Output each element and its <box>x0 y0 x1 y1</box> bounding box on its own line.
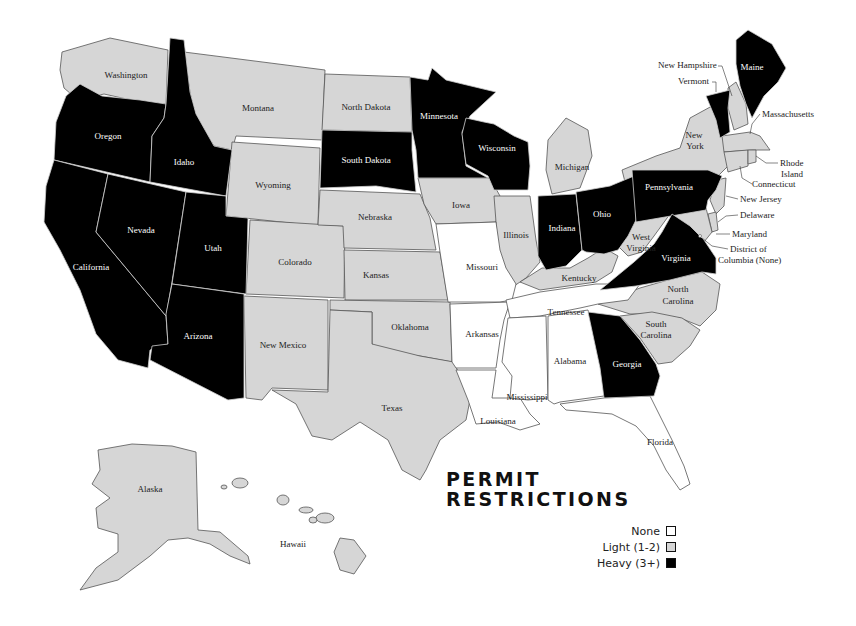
label-iowa: Iowa <box>452 200 470 210</box>
state-mississippi[interactable] <box>502 316 548 400</box>
callout-dc-1: District of <box>730 244 767 254</box>
label-maine: Maine <box>741 62 764 72</box>
legend-item-none: None <box>526 523 676 539</box>
label-north-carolina-1: North <box>668 284 689 294</box>
label-illinois: Illinois <box>503 230 529 240</box>
callout-maryland: Maryland <box>732 229 767 239</box>
label-west-virginia-2: Virginia <box>626 243 655 253</box>
legend-label-none: None <box>631 525 660 538</box>
legend-item-light: Light (1-2) <box>526 539 676 555</box>
label-oregon: Oregon <box>95 131 122 141</box>
label-ohio: Ohio <box>593 209 612 219</box>
callout-connecticut: Connecticut <box>752 179 796 189</box>
label-north-carolina-2: Carolina <box>663 296 694 306</box>
label-arkansas: Arkansas <box>465 329 499 339</box>
callout-rhode-island-1: Rhode <box>780 158 804 168</box>
leader-line <box>740 166 752 184</box>
label-utah: Utah <box>204 243 222 253</box>
swatch-heavy-icon <box>666 558 676 568</box>
label-montana: Montana <box>242 103 274 113</box>
callout-new-jersey: New Jersey <box>740 194 782 204</box>
label-idaho: Idaho <box>174 157 195 167</box>
swatch-light-icon <box>666 542 676 552</box>
label-indiana: Indiana <box>549 223 576 233</box>
label-nevada: Nevada <box>127 225 154 235</box>
label-kentucky: Kentucky <box>562 273 597 283</box>
state-kansas[interactable] <box>344 250 448 300</box>
label-kansas: Kansas <box>363 270 389 280</box>
label-mississippi: Mississippi <box>506 392 548 402</box>
label-michigan: Michigan <box>555 162 590 172</box>
callout-rhode-island-2: Island <box>781 169 803 179</box>
label-wisconsin: Wisconsin <box>478 143 516 153</box>
label-new-mexico: New Mexico <box>260 340 307 350</box>
label-arizona: Arizona <box>184 331 213 341</box>
leader-line <box>718 215 738 222</box>
label-wyoming: Wyoming <box>255 180 291 190</box>
label-missouri: Missouri <box>466 262 499 272</box>
callout-dc-2: Columbia (None) <box>718 255 781 265</box>
label-south-carolina-2: Carolina <box>641 330 672 340</box>
legend-item-heavy: Heavy (3+) <box>526 555 676 571</box>
state-alaska[interactable] <box>80 444 250 590</box>
label-tennessee: Tennessee <box>548 307 585 317</box>
label-washington: Washington <box>105 70 148 80</box>
leader-line <box>756 156 778 163</box>
callout-delaware: Delaware <box>740 210 774 220</box>
state-michigan[interactable] <box>546 118 592 194</box>
legend-items: None Light (1-2) Heavy (3+) <box>526 523 676 571</box>
label-colorado: Colorado <box>278 257 312 267</box>
swatch-none-icon <box>666 526 676 536</box>
legend-label-heavy: Heavy (3+) <box>597 557 660 570</box>
label-west-virginia-1: West <box>632 232 650 242</box>
state-rhode-island[interactable] <box>748 150 756 164</box>
label-california: California <box>73 262 110 272</box>
label-pennsylvania: Pennsylvania <box>645 182 693 192</box>
label-nebraska: Nebraska <box>358 212 392 222</box>
label-alaska: Alaska <box>138 484 163 494</box>
label-north-dakota: North Dakota <box>341 102 390 112</box>
label-louisiana: Louisiana <box>480 416 516 426</box>
label-new-york-2: York <box>686 141 704 151</box>
legend-label-light: Light (1-2) <box>603 541 661 554</box>
label-minnesota: Minnesota <box>420 111 458 121</box>
label-new-york-1: New <box>686 130 703 140</box>
leader-line <box>726 196 738 199</box>
label-south-carolina-1: South <box>645 319 667 329</box>
callout-massachusetts: Massachusetts <box>762 109 814 119</box>
state-connecticut[interactable] <box>724 150 748 172</box>
label-hawaii: Hawaii <box>280 539 306 549</box>
state-dc[interactable] <box>699 235 702 238</box>
callout-vermont: Vermont <box>678 76 709 86</box>
label-south-dakota: South Dakota <box>341 155 390 165</box>
us-map: Washington Montana Wyoming Colorado New … <box>0 0 856 626</box>
label-virginia: Virginia <box>661 253 690 263</box>
legend-title-line-2: RESTRICTIONS <box>446 489 646 509</box>
label-texas: Texas <box>382 403 403 413</box>
legend-title-line-1: PERMIT <box>446 469 646 489</box>
callout-new-hampshire: New Hampshire <box>658 60 717 70</box>
label-florida: Florida <box>647 437 673 447</box>
label-oklahoma: Oklahoma <box>391 322 429 332</box>
label-georgia: Georgia <box>613 359 642 369</box>
label-alabama: Alabama <box>554 356 586 366</box>
legend: PERMIT RESTRICTIONS None Light (1-2) Hea… <box>446 469 646 509</box>
state-massachusetts[interactable] <box>722 132 770 152</box>
leader-line <box>712 82 716 92</box>
